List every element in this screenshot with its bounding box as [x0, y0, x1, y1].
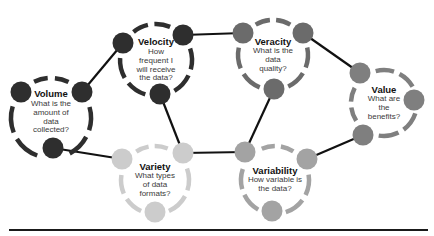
- value-node-dot-3: [353, 125, 374, 146]
- volume-ring-arc: [89, 107, 91, 130]
- volume-label: Volume What is the amount of data collec…: [16, 89, 86, 135]
- connector-lines: [53, 33, 363, 159]
- variability-node-dot-3: [262, 201, 283, 222]
- veracity-label: Veracity What is the data quality?: [238, 37, 308, 74]
- value-ring-arc: [379, 133, 399, 136]
- velocity-ring-arc: [134, 25, 148, 32]
- variety-label: Variety What types of data formats?: [120, 162, 190, 199]
- value-label: Value What are the benefits?: [349, 85, 419, 122]
- variability-ring-arc: [286, 200, 303, 212]
- volume-ring-arc: [34, 78, 48, 82]
- velocity-label: Velocity How frequent I will receive the…: [121, 37, 191, 83]
- velocity-ring-arc: [128, 83, 145, 94]
- volume-ring-arc: [55, 78, 69, 82]
- veracity-ring-arc: [288, 73, 303, 86]
- variability-ring-arc: [244, 195, 258, 210]
- variety-ring-arc: [127, 199, 141, 211]
- value-question-line-3: benefits?: [349, 113, 419, 122]
- velocity-ring-arc: [154, 24, 170, 27]
- velocity-node-dot-3: [150, 84, 171, 105]
- veracity-ring-arc: [276, 20, 290, 25]
- volume-ring-arc: [11, 106, 14, 132]
- variability-question-line-2: the data?: [240, 185, 310, 194]
- variety-node-dot-2: [173, 143, 194, 164]
- variability-node-dot-1: [235, 142, 256, 163]
- variability-ring-arc: [281, 147, 293, 152]
- velocity-question-line-4: the data?: [121, 74, 191, 83]
- veracity-node-dot-3: [264, 79, 285, 100]
- variability-ring-arc: [262, 146, 275, 149]
- variability-label: Variability How variable is the data?: [240, 166, 310, 195]
- volume-ring-arc: [17, 139, 37, 156]
- bottom-divider: [9, 229, 428, 231]
- value-node-dot-1: [350, 63, 371, 84]
- volume-node-dot-3: [43, 138, 64, 159]
- variety-ring-arc: [155, 146, 168, 149]
- value-ring-arc: [376, 70, 394, 72]
- veracity-ring-arc: [256, 20, 270, 25]
- variety-node-dot-3: [145, 202, 166, 223]
- veracity-question-line-3: quality?: [238, 65, 308, 74]
- veracity-ring-arc: [244, 74, 260, 87]
- variety-ring-arc: [136, 147, 148, 152]
- volume-question-line-4: collected?: [16, 126, 86, 135]
- variety-question-line-3: formats?: [120, 190, 190, 199]
